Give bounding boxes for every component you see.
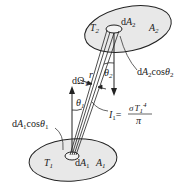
leader-intensity xyxy=(92,102,108,111)
label-theta1: θ1 xyxy=(76,97,84,110)
svg-text:I1=: I1= xyxy=(108,109,122,122)
label-da2-cos-theta2: dA2cosθ2 xyxy=(137,66,174,79)
intensity-formula: I1= σT14 π xyxy=(108,101,152,126)
radiation-exchange-diagram: T2 dA2 A2 dA2cosθ2 dΩ1 r θ2 θ1 I1= σT14 … xyxy=(0,0,189,194)
svg-text:π: π xyxy=(136,115,142,126)
label-da1-cos-theta1: dA1cosθ1 xyxy=(12,118,49,131)
svg-text:σT14: σT14 xyxy=(129,101,147,115)
angle-arc-2 xyxy=(104,63,114,64)
label-dOmega1: dΩ1 xyxy=(72,75,88,88)
label-theta2: θ2 xyxy=(104,67,113,80)
element-da2 xyxy=(106,25,122,33)
label-r: r xyxy=(89,69,93,80)
